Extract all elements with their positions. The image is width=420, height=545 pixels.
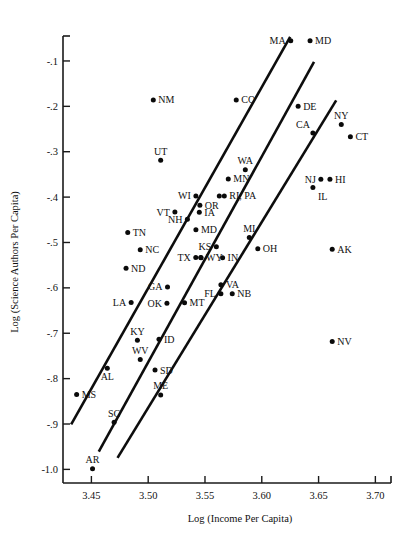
point-marker-LA [129,300,134,305]
point-marker-TN [125,230,130,235]
y-tick-label-9: -1.0 [41,464,58,475]
point-marker-WV [138,357,143,362]
point-label-WI: WI [178,190,191,201]
point-marker-MN [226,176,231,181]
point-label-MD: MD [315,35,331,46]
point-marker-ND [124,266,129,271]
point-marker-GA [165,284,170,289]
point-marker-NC [138,247,143,252]
y-tick-label-5: -.6 [47,282,58,293]
point-label-NB: NB [237,288,251,299]
point-label-AL: AL [101,371,114,382]
point-label-MI: MI [243,223,255,234]
point-label-AR: AR [86,454,100,465]
point-marker-IL [310,185,315,190]
point-label-OK: OK [147,298,162,309]
point-label-NC: NC [145,244,159,255]
point-marker-AK [330,247,335,252]
point-label-NM: NM [158,94,174,105]
point-label-CA: CA [296,119,311,130]
point-label-UT: UT [154,146,167,157]
point-label-ID: ID [164,334,175,345]
plot-canvas: -.1-.2-.3-.4-.5-.6-.7-.8-.9-1.03.453.503… [0,0,420,545]
point-marker-NY [339,122,344,127]
x-tick-label-0: 3.45 [82,490,100,501]
point-label-SD: SD [160,365,173,376]
point-label-ME: ME [153,380,168,391]
point-marker-VA [218,282,223,287]
point-marker-KY [135,338,140,343]
point-label-NJ: NJ [305,174,316,185]
y-axis-title: Log (Science Authors Per Capita) [9,191,21,333]
point-marker-AR [90,466,95,471]
point-label-NV: NV [337,336,352,347]
point-label-HI: HI [335,174,346,185]
point-marker-FL [218,291,223,296]
point-marker-WY [199,255,204,260]
point-label-IN: IN [228,252,239,263]
point-marker-ID [156,337,161,342]
point-label-WV: WV [132,345,149,356]
point-label-MD: MD [201,224,217,235]
point-label-DE: DE [303,101,316,112]
point-marker-MA [288,38,293,43]
x-tick-label-3: 3.60 [253,490,271,501]
point-label-TX: TX [177,252,191,263]
y-tick-label-3: -.4 [47,192,59,203]
point-label-SC: SC [108,408,121,419]
point-label-AK: AK [337,244,352,255]
point-label-MS: MS [82,389,96,400]
point-marker-IN [220,255,225,260]
y-tick-label-2: -.3 [47,146,58,157]
x-tick-label-4: 3.65 [309,490,327,501]
point-label-NY: NY [334,110,348,121]
point-marker-AL [105,366,110,371]
x-tick-label-5: 3.70 [366,490,384,501]
point-marker-NB [230,291,235,296]
point-marker-NV [330,339,335,344]
point-label-FL: FL [204,288,216,299]
point-marker-MD [308,38,313,43]
point-marker-MD [193,227,198,232]
point-label-MN: MN [233,173,249,184]
y-tick-label-4: -.5 [47,237,58,248]
y-tick-label-7: -.8 [47,373,58,384]
point-marker-NM [151,97,156,102]
point-marker-CA [310,131,315,136]
point-label-MT: MT [190,297,205,308]
point-marker-UT [158,158,163,163]
point-label-KY: KY [130,326,144,337]
point-label-IL: IL [318,191,327,202]
point-label-TN: TN [133,227,146,238]
point-marker-RI, PA-b [222,193,227,198]
point-marker-MS [74,392,79,397]
y-tick-label-1: -.2 [47,101,58,112]
point-marker-CO [234,97,239,102]
point-marker-SD [153,368,158,373]
point-label-CT: CT [355,131,368,142]
point-marker-IA [197,210,202,215]
point-label-NH: NH [168,214,182,225]
point-label-MA: MA [270,35,287,46]
point-label-RI, PA: RI, PA [229,190,257,201]
point-marker-WA [243,167,248,172]
point-marker-ME [158,392,163,397]
point-marker-NJ [318,177,323,182]
point-marker-OH [255,246,260,251]
point-marker-SC [112,420,117,425]
x-tick-label-1: 3.50 [139,490,157,501]
point-label-ND: ND [131,263,145,274]
point-label-LA: LA [113,297,127,308]
scatter-plot-figure: -.1-.2-.3-.4-.5-.6-.7-.8-.9-1.03.453.503… [0,0,420,545]
point-marker-CT [348,134,353,139]
point-marker-NH [185,217,190,222]
y-tick-label-6: -.7 [47,328,58,339]
point-marker-KS [214,244,219,249]
point-marker-OR [197,203,202,208]
y-tick-label-0: -.1 [47,56,58,67]
point-label-IA: IA [204,207,215,218]
point-marker-OK [164,301,169,306]
point-marker-WI [193,193,198,198]
point-label-OH: OH [263,243,277,254]
point-marker-TX-a [193,255,198,260]
